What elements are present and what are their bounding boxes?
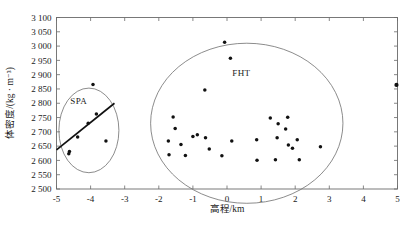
- data-point: [269, 116, 273, 120]
- data-point: [86, 122, 90, 126]
- data-point: [208, 147, 212, 151]
- data-point: [104, 139, 108, 143]
- x-tick-label: -3: [121, 194, 129, 204]
- data-point: [255, 158, 259, 162]
- chart-figure: 2 5002 5502 6002 6502 7002 7502 8002 850…: [0, 0, 414, 228]
- y-tick-label: 2 750: [31, 113, 52, 123]
- cluster-ellipse-spa: [59, 88, 119, 173]
- data-point: [203, 88, 207, 92]
- data-point: [286, 116, 290, 120]
- data-points: [67, 41, 399, 162]
- y-axis-tick-labels: 2 5002 5502 6002 6502 7002 7502 8002 850…: [31, 13, 52, 195]
- data-point: [284, 127, 288, 131]
- data-point: [76, 135, 80, 139]
- y-tick-label: 2 500: [31, 184, 52, 194]
- trend-line: [57, 103, 115, 150]
- x-axis-tick-labels: -5-4-3-2-1012345: [53, 194, 401, 204]
- data-point: [91, 83, 95, 87]
- x-tick-label: 3: [327, 194, 332, 204]
- x-tick-label: -5: [53, 194, 61, 204]
- data-point: [276, 122, 280, 126]
- cluster-label-fht: FHT: [232, 68, 250, 78]
- cluster-ellipse-fht: [151, 43, 343, 203]
- data-point: [275, 136, 279, 140]
- x-tick-label: -1: [189, 194, 197, 204]
- data-point: [298, 158, 302, 162]
- data-point: [295, 138, 299, 142]
- data-point: [204, 136, 208, 140]
- y-tick-label: 2 650: [31, 141, 52, 151]
- x-tick-label: 4: [361, 194, 366, 204]
- data-point: [291, 146, 295, 150]
- data-point: [196, 133, 200, 137]
- x-tick-label: 2: [293, 194, 298, 204]
- data-point: [167, 139, 171, 143]
- y-tick-label: 2 800: [31, 98, 52, 108]
- data-point: [394, 83, 398, 87]
- data-point: [95, 112, 99, 116]
- scatter-plot: 2 5002 5502 6002 6502 7002 7502 8002 850…: [0, 0, 414, 228]
- x-axis-title: 高程/km: [210, 203, 245, 214]
- data-point: [319, 145, 323, 149]
- data-point: [67, 152, 71, 156]
- data-point: [173, 127, 177, 131]
- cluster-annotations: SPAFHT: [70, 68, 250, 106]
- x-tick-label: -2: [155, 194, 163, 204]
- y-tick-label: 3 000: [31, 41, 52, 51]
- y-tick-label: 2 600: [31, 156, 52, 166]
- x-tick-label: 0: [225, 194, 230, 204]
- y-tick-label: 2 700: [31, 127, 52, 137]
- trend-lines: [57, 103, 115, 150]
- data-point: [184, 154, 188, 158]
- data-point: [179, 143, 183, 147]
- data-point: [255, 138, 259, 142]
- y-tick-label: 3 100: [31, 13, 52, 23]
- data-point: [274, 158, 278, 162]
- data-point: [167, 153, 171, 157]
- data-point: [220, 154, 224, 158]
- x-tick-label: 5: [395, 194, 400, 204]
- y-tick-label: 2 950: [31, 56, 52, 66]
- y-axis-title: 体密度/(kg · m⁻³): [4, 67, 16, 139]
- data-point: [191, 135, 195, 139]
- y-tick-label: 2 850: [31, 84, 52, 94]
- data-point: [223, 41, 227, 45]
- y-tick-label: 3 050: [31, 27, 52, 37]
- x-tick-label: -4: [87, 194, 95, 204]
- data-point: [287, 143, 291, 147]
- data-point: [229, 57, 233, 61]
- cluster-ellipses: [59, 43, 343, 203]
- y-tick-label: 2 900: [31, 70, 52, 80]
- cluster-label-spa: SPA: [70, 96, 87, 106]
- data-point: [171, 115, 175, 119]
- y-tick-label: 2 550: [31, 170, 52, 180]
- data-point: [230, 139, 234, 143]
